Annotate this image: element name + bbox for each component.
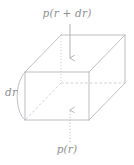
depth-edge-top-right (89, 35, 125, 72)
visible-edges-group (17, 35, 125, 120)
box-diagram-svg (0, 0, 134, 165)
pressure-top-label: p(r + dr) (43, 8, 92, 19)
pressure-bottom-label: p(r) (57, 144, 78, 155)
thickness-dr-label: dr (5, 87, 17, 98)
hidden-edges-group (25, 35, 125, 120)
radial-curvature-arc (17, 72, 25, 120)
hidden-bottom-diagonal-edge (25, 83, 61, 120)
figure-container: p(r + dr) p(r) dr (0, 0, 134, 165)
depth-edge-bottom-right (89, 83, 125, 120)
depth-edge-top-left (25, 35, 61, 72)
